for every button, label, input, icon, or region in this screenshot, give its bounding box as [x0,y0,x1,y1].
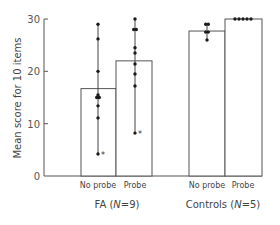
data-point [96,37,99,40]
group-label-fa: FA (N=9) [95,199,140,210]
x-tick-controls-probe: Probe [232,181,255,190]
y-tick-0: 0 [34,171,40,182]
bar-fa-probe [116,61,152,176]
data-point [233,17,236,20]
group-label-controls: Controls (N=5) [186,199,261,210]
bar-chart: Mean score for 10 items 30 20 10 0 ** No… [0,0,280,225]
data-point [207,30,210,33]
data-point [96,116,99,119]
asterisk-marker: * [138,130,142,139]
data-point [133,72,136,75]
y-tick-30: 30 [27,14,40,25]
data-point [133,51,136,54]
asterisk-marker: * [101,151,105,160]
x-tick-fa-probe: Probe [124,181,147,190]
data-point [133,17,136,20]
x-tick-controls-no-probe: No probe [189,181,226,190]
data-point [249,17,252,20]
data-point [96,104,99,107]
data-point [133,131,136,134]
data-point [133,46,136,49]
data-point [237,17,240,20]
y-axis-label: Mean score for 10 items [12,37,23,158]
data-point [241,17,244,20]
data-point [135,28,138,31]
data-point [245,17,248,20]
bar-controls-probe [225,19,262,176]
x-tick-fa-no-probe: No probe [80,181,117,190]
data-point [207,23,210,26]
bars-layer: ** [81,17,262,176]
data-point [96,152,99,155]
data-point [205,38,208,41]
data-point [96,70,99,73]
bar-controls-no-probe [189,31,225,176]
data-point [133,62,136,65]
y-tick-10: 10 [27,119,40,130]
data-point [96,23,99,26]
y-tick-20: 20 [27,66,40,77]
data-point [133,84,136,87]
data-point [96,93,99,96]
